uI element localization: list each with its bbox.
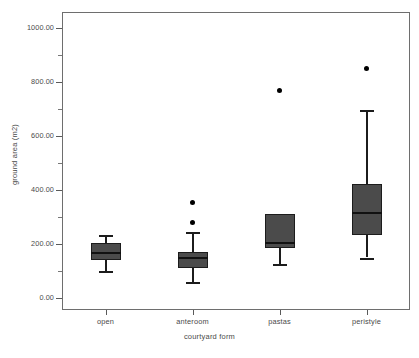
whisker-cap-upper — [360, 110, 374, 112]
x-tick-label-peristyle: peristyle — [322, 317, 412, 326]
x-tick-label-open: open — [61, 317, 151, 326]
y-axis-major-tick — [56, 298, 62, 299]
y-tick-label: 800.00 — [8, 78, 54, 86]
boxplot-chart: ground area (m2) 1000.00800.00600.00400.… — [0, 0, 419, 358]
y-tick-label: 0.00 — [8, 294, 54, 302]
y-tick-label: 1000.00 — [8, 24, 54, 32]
whisker-cap-lower — [273, 264, 287, 266]
y-axis-major-tick — [56, 244, 62, 245]
y-tick-label: 400.00 — [8, 186, 54, 194]
whisker-upper — [366, 110, 368, 184]
outlier-point-anteroom — [190, 220, 195, 225]
y-axis-minor-tick — [58, 217, 62, 218]
whisker-lower — [279, 248, 281, 264]
y-axis-major-tick — [56, 190, 62, 191]
y-axis-minor-tick — [58, 109, 62, 110]
whisker-cap-lower — [99, 271, 113, 273]
outlier-point-peristyle — [364, 66, 369, 71]
y-axis-minor-tick — [58, 163, 62, 164]
whisker-cap-upper — [99, 235, 113, 237]
x-axis-title: courtyard form — [0, 332, 419, 341]
outlier-point-anteroom — [190, 200, 195, 205]
y-axis-minor-tick — [58, 271, 62, 272]
x-axis-tick — [106, 310, 107, 315]
whisker-lower — [105, 260, 107, 271]
x-tick-label-anteroom: anteroom — [148, 317, 238, 326]
box-open — [91, 243, 121, 261]
whisker-cap-upper — [186, 232, 200, 234]
y-axis-tick-labels: 1000.00800.00600.00400.00200.000.00 — [8, 0, 54, 358]
median-line-anteroom — [178, 257, 208, 259]
y-axis-minor-tick — [58, 55, 62, 56]
whisker-cap-lower — [186, 282, 200, 284]
median-line-pastas — [265, 242, 295, 244]
whisker-lower — [192, 268, 194, 282]
x-axis-tick — [367, 310, 368, 315]
box-peristyle — [352, 184, 382, 235]
whisker-lower — [366, 235, 368, 257]
x-axis-tick — [193, 310, 194, 315]
x-axis-tick — [280, 310, 281, 315]
outlier-point-pastas — [277, 88, 282, 93]
y-tick-label: 600.00 — [8, 132, 54, 140]
x-tick-label-pastas: pastas — [235, 317, 325, 326]
y-axis-major-tick — [56, 136, 62, 137]
y-axis-major-tick — [56, 28, 62, 29]
median-line-open — [91, 252, 121, 254]
plot-area — [62, 12, 410, 310]
y-axis-major-tick — [56, 82, 62, 83]
y-tick-label: 200.00 — [8, 240, 54, 248]
whisker-upper — [192, 232, 194, 252]
median-line-peristyle — [352, 212, 382, 214]
whisker-cap-lower — [360, 258, 374, 260]
box-anteroom — [178, 252, 208, 269]
